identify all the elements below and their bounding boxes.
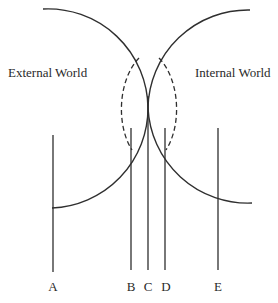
external-world-arc <box>43 9 148 208</box>
diagram-canvas: External World Internal World A B C D E <box>0 0 278 303</box>
internal-world-arc <box>148 10 252 203</box>
label-d: D <box>161 279 170 294</box>
diagram-svg: External World Internal World A B C D E <box>0 0 278 303</box>
external-world-label: External World <box>8 65 88 80</box>
label-a: A <box>48 279 58 294</box>
right-dashed-arc <box>159 58 177 150</box>
label-e: E <box>214 279 222 294</box>
label-b: B <box>127 279 136 294</box>
left-dashed-arc <box>121 58 139 150</box>
internal-world-label: Internal World <box>195 65 271 80</box>
label-c: C <box>144 279 153 294</box>
